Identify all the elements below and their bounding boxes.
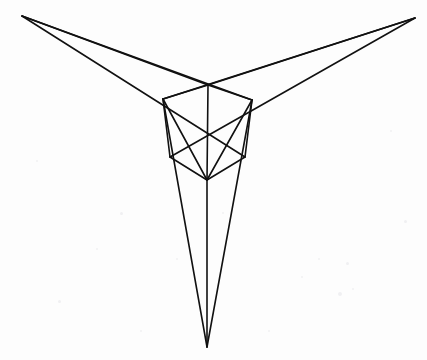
three-point-perspective-diagram — [0, 0, 427, 360]
vertical-edge-center — [207, 85, 208, 180]
drawing-canvas — [0, 0, 427, 360]
paper-background — [0, 0, 427, 360]
